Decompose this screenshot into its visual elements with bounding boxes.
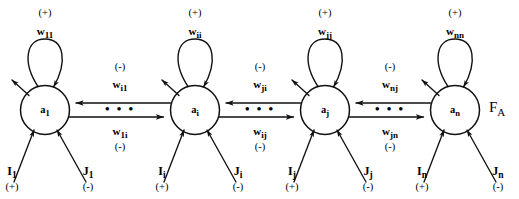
self-weight-subscript-i: ii [196,30,201,40]
input-line-inhibitory-i [207,130,236,182]
input-line-excitatory-j [294,130,314,182]
input-inhibitory-subscript-i: i [240,170,243,180]
self-loop-i [178,39,212,87]
self-weight-subscript-1: 11 [45,30,54,40]
input-inhibitory-label-i: Ji [234,165,243,181]
lateral-bottom-weight-subscript-j-n: jn [390,130,398,140]
input-excitatory-label-j: Ij [288,165,296,181]
lateral-bottom-weight-j-n: wjn [382,126,398,140]
lateral-bottom-sign-j-n: (-) [385,142,396,153]
lateral-top-weight-symbol-1-i: w [113,78,121,90]
lateral-top-sign-i-j: (-) [255,62,266,73]
self-weight-symbol-n: w [446,25,454,37]
self-loop-n [438,39,472,87]
lateral-bottom-sign-1-i: (-) [115,142,126,153]
input-excitatory-subscript-n: n [422,170,427,180]
input-inhibitory-subscript-1: 1 [89,170,94,180]
lateral-top-weight-subscript-i-j: ji [261,83,267,93]
lateral-bottom-weight-subscript-i-j: ij [261,130,267,140]
lateral-bottom-weight-i-j: wij [253,126,266,140]
node-activation-subscript-1: 1 [46,108,50,118]
lateral-top-weight-i-j: wji [253,79,266,93]
self-weight-subscript-n: nn [454,30,464,40]
input-excitatory-sign-n: (+) [416,182,429,193]
self-loop-sign-n: (+) [449,8,462,19]
input-excitatory-subscript-1: 1 [12,170,17,180]
lateral-bottom-weight-symbol-1-i: w [113,125,121,137]
input-excitatory-label-i: Ii [158,165,165,181]
network-diagram: (+) w11 a1 I1 (+) J1 (-) (+) wii ai Ii (… [0,0,519,199]
input-excitatory-label-1: I1 [7,165,16,181]
output-arrow-1 [12,80,29,96]
input-line-inhibitory-j [337,130,366,182]
self-loop-sign-j: (+) [319,8,332,19]
input-excitatory-label-n: In [417,165,427,181]
input-inhibitory-subscript-n: n [498,170,503,180]
lateral-ellipsis-j-n: • • • [375,102,405,115]
lateral-bottom-weight-subscript-1-i: 1i [120,130,127,140]
node-label-j: aj [321,105,329,118]
self-weight-symbol-i: w [189,25,197,37]
node-label-i: ai [191,105,199,118]
lateral-top-weight-j-n: wnj [382,79,398,93]
lateral-bottom-sign-i-j: (-) [255,142,266,153]
self-loop-j [308,39,342,87]
self-loop-sign-i: (+) [189,8,202,19]
lateral-top-weight-subscript-j-n: nj [390,83,398,93]
input-line-excitatory-1 [14,130,34,182]
self-weight-label-1: w11 [37,26,53,40]
self-weight-symbol-1: w [37,25,45,37]
self-loop-sign-1: (+) [39,8,52,19]
output-arrow-n [422,80,439,96]
node-activation-subscript-n: n [455,108,460,118]
input-inhibitory-sign-1: (-) [83,182,94,193]
self-weight-label-n: wnn [446,26,464,40]
lateral-top-weight-subscript-1-i: i1 [120,83,127,93]
node-activation-subscript-j: j [326,108,329,118]
lateral-bottom-weight-symbol-j-n: w [382,125,390,137]
input-inhibitory-subscript-j: j [369,170,372,180]
output-arrow-i [162,80,179,96]
lateral-top-weight-1-i: wi1 [113,79,128,93]
input-excitatory-sign-1: (+) [6,182,19,193]
output-arrow-j [292,80,309,96]
input-inhibitory-label-j: Jj [363,165,372,181]
self-weight-subscript-j: jj [326,30,332,40]
node-label-1: a1 [40,105,50,118]
input-excitatory-subscript-i: i [163,170,166,180]
node-activation-subscript-i: i [196,108,198,118]
self-weight-label-j: wjj [318,26,332,40]
self-weight-label-i: wii [189,26,202,40]
input-excitatory-subscript-j: j [293,170,296,180]
input-line-excitatory-i [164,130,184,182]
lateral-ellipsis-1-i: • • • [105,102,135,115]
input-inhibitory-sign-n: (-) [493,182,504,193]
lateral-top-sign-1-i: (-) [115,62,126,73]
self-loop-1 [28,39,62,87]
lateral-top-weight-symbol-j-n: w [382,78,390,90]
input-excitatory-sign-i: (+) [156,182,169,193]
field-label: FA [489,100,505,118]
self-weight-symbol-j: w [318,25,326,37]
lateral-ellipsis-i-j: • • • [245,102,275,115]
input-inhibitory-label-1: J1 [83,165,94,181]
node-label-n: an [450,105,460,118]
lateral-bottom-weight-1-i: w1i [113,126,128,140]
input-inhibitory-sign-i: (-) [233,182,244,193]
lateral-bottom-weight-symbol-i-j: w [253,125,261,137]
field-label-subscript: A [497,106,505,118]
input-excitatory-sign-j: (+) [286,182,299,193]
lateral-top-sign-j-n: (-) [385,62,396,73]
input-inhibitory-sign-j: (-) [363,182,374,193]
network-graphics [0,0,519,199]
lateral-top-weight-symbol-i-j: w [253,78,261,90]
input-inhibitory-label-n: Jn [492,165,503,181]
